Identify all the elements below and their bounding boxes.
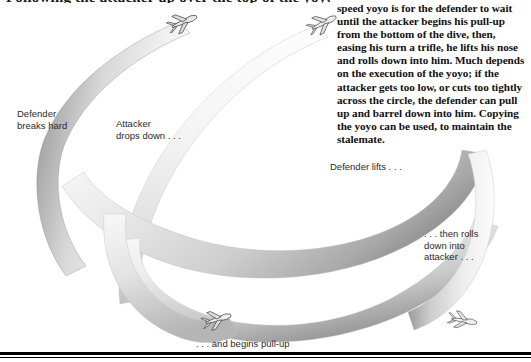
aircraft-icon-bottom-right: [447, 310, 478, 331]
annotation-defender-breaks-hard: Defender breaks hard: [17, 108, 67, 131]
bottom-rule-thick: [0, 352, 531, 355]
bottom-rule-thin: [0, 357, 531, 358]
annotation-then-rolls-down-into-attacker: . . . then rolls down into attacker . . …: [424, 228, 478, 263]
annotation-and-begins-pull-up: . . . and begins pull-up: [196, 338, 289, 350]
annotation-attacker-drops-down: Attacker drops down . . .: [116, 118, 181, 141]
book-page: Following the attacker up over the top o…: [0, 0, 531, 362]
body-paragraph: speed yoyo is for the defender to wait u…: [337, 2, 527, 146]
annotation-defender-lifts: Defender lifts . . .: [330, 161, 402, 173]
